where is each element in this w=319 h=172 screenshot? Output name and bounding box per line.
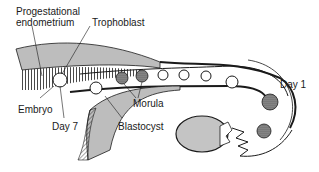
zygote — [201, 71, 211, 81]
four-cell — [158, 70, 168, 80]
label-embryo: Embryo — [18, 104, 52, 115]
oocyte-corona — [262, 94, 278, 110]
morula-early — [136, 70, 148, 82]
label-day7: Day 7 — [52, 121, 78, 132]
leader-day7 — [60, 86, 64, 118]
label-morula: Morula — [133, 98, 164, 109]
two-cell — [179, 70, 189, 80]
ruptured-follicle — [220, 122, 232, 146]
morula-late — [116, 72, 128, 84]
label-trophoblast: Trophoblast — [92, 17, 144, 28]
label-progestational: Progestational — [16, 6, 80, 17]
fertilized-egg — [226, 76, 238, 88]
oocyte-released — [257, 124, 271, 138]
uterine-wall-upper — [16, 43, 160, 70]
label-day1: Day 1 — [280, 79, 306, 90]
label-endometrium: endometrium — [16, 17, 74, 28]
implanting-embryo — [53, 73, 67, 87]
label-blastocyst: Blastocyst — [118, 121, 164, 132]
blastocyst — [90, 82, 102, 94]
